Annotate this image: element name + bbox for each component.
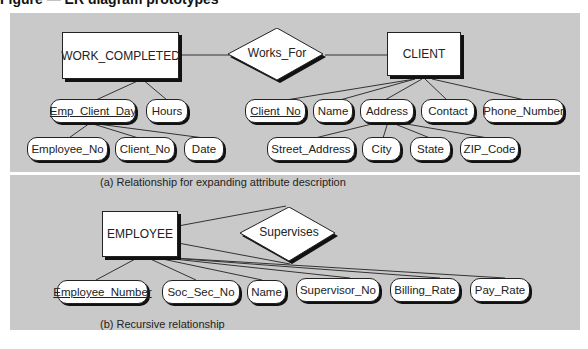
attr-employee-no: Employee_No <box>27 137 108 161</box>
attr-city: City <box>362 137 401 161</box>
attr-pay-rate: Pay_Rate <box>470 278 530 302</box>
attr-address: Address <box>360 99 414 123</box>
attr-name: Name <box>313 99 353 123</box>
subcaption-b: (b) Recursive relationship <box>100 318 225 330</box>
relationship-label: Works_For <box>248 46 306 60</box>
relationship-label: Supervises <box>259 225 318 239</box>
attr-billing-rate: Billing_Rate <box>390 278 460 302</box>
attr-contact: Contact <box>421 99 475 123</box>
attr-name-b: Name <box>247 280 286 304</box>
attr-employee-number: Employee_Number <box>57 280 148 304</box>
relationship-works-for: Works_For <box>228 28 326 84</box>
attr-supervisor-no: Supervisor_No <box>296 278 380 302</box>
relationship-supervises: Supervises <box>240 207 338 263</box>
attr-zip-code: ZIP_Code <box>460 137 519 161</box>
entity-label: EMPLOYEE <box>107 227 173 241</box>
entity-label: WORK_COMPLETED <box>61 49 180 63</box>
attr-client-no: Client_No <box>245 99 306 123</box>
entity-work-completed: WORK_COMPLETED <box>62 32 179 79</box>
attr-hours: Hours <box>146 99 188 123</box>
attr-soc-sec-no: Soc_Sec_No <box>162 280 240 304</box>
attr-street-address: Street_Address <box>267 137 355 161</box>
attr-state: State <box>410 137 451 161</box>
attr-emp-client-day: Emp_Client_Day <box>50 99 136 123</box>
entity-employee: EMPLOYEE <box>102 211 178 257</box>
subcaption-a: (a) Relationship for expanding attribute… <box>100 176 346 188</box>
attr-phone-number: Phone_Number <box>483 99 564 123</box>
entity-label: CLIENT <box>403 47 446 61</box>
entity-client: CLIENT <box>387 32 461 76</box>
attr-date: Date <box>184 137 224 161</box>
attr-client-no-part: Client_No <box>115 137 175 161</box>
